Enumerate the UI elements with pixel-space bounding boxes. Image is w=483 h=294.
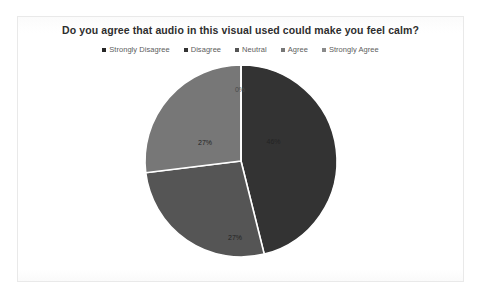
chart-title: Do you agree that audio in this visual u… <box>18 24 463 36</box>
legend-item[interactable]: Agree <box>281 45 308 54</box>
legend-item[interactable]: Neutral <box>235 45 267 54</box>
legend-item[interactable]: Strongly Agree <box>322 45 379 54</box>
legend-item[interactable]: Disagree <box>184 45 221 54</box>
pie-slice[interactable] <box>145 65 241 173</box>
legend-item-label: Strongly Disagree <box>109 45 169 54</box>
pie-chart-graphic <box>121 61 361 261</box>
legend-item[interactable]: Strongly Disagree <box>102 45 169 54</box>
legend-item-label: Strongly Agree <box>329 45 379 54</box>
legend-item-label: Agree <box>288 45 308 54</box>
legend-swatch-icon <box>102 48 106 52</box>
legend-item-label: Neutral <box>242 45 267 54</box>
chart-legend: Strongly DisagreeDisagreeNeutralAgreeStr… <box>18 45 463 54</box>
pie-chart-card: Do you agree that audio in this visual u… <box>17 16 464 282</box>
legend-swatch-icon <box>235 48 239 52</box>
legend-swatch-icon <box>281 48 285 52</box>
pie-plot-area: 0%46%27%27% <box>18 61 463 283</box>
legend-swatch-icon <box>322 48 326 52</box>
legend-swatch-icon <box>184 48 188 52</box>
legend-item-label: Disagree <box>191 45 221 54</box>
